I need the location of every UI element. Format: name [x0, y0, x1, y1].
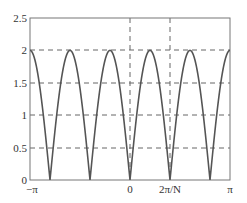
y-tick-1: 1 [22, 109, 28, 121]
grid-lines [30, 18, 230, 180]
y-axis-labels: 0 0.5 1 1.5 2 2.5 [13, 12, 27, 186]
x-tick-neg-pi: −π [26, 183, 38, 195]
x-tick-zero: 0 [127, 183, 133, 195]
y-tick-0-5: 0.5 [13, 142, 27, 154]
y-tick-1-5: 1.5 [13, 77, 27, 89]
x-tick-2pi-over-n: 2π/N [159, 183, 181, 195]
x-tick-pi: π [227, 183, 233, 195]
y-tick-2: 2 [22, 44, 28, 56]
x-axis-labels: −π 0 2π/N π [26, 183, 233, 195]
y-tick-2-5: 2.5 [13, 12, 27, 24]
chart: 0 0.5 1 1.5 2 2.5 −π 0 2π/N π [0, 0, 247, 203]
